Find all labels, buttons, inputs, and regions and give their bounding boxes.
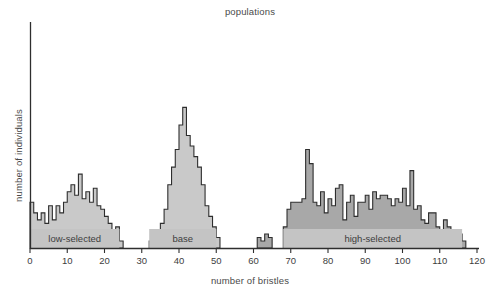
x-tick-label-60: 60 — [248, 255, 259, 266]
x-tick-label-0: 0 — [27, 255, 32, 266]
x-tick-label-70: 70 — [285, 255, 296, 266]
x-tick-label-110: 110 — [432, 255, 447, 266]
x-tick-label-80: 80 — [323, 255, 334, 266]
x-axis-ticks: 0102030405060708090100110120 — [27, 248, 485, 266]
histogram-bars — [30, 107, 466, 248]
x-tick-label-120: 120 — [469, 255, 485, 266]
x-tick-label-90: 90 — [360, 255, 371, 266]
x-tick-label-20: 20 — [99, 255, 110, 266]
chart-figure: populations number of individuals number… — [0, 0, 500, 299]
x-tick-label-10: 10 — [62, 255, 73, 266]
group-band-label-high-selected: high-selected — [344, 233, 401, 244]
group-band-label-base: base — [172, 233, 193, 244]
x-tick-label-50: 50 — [211, 255, 222, 266]
x-tick-label-30: 30 — [136, 255, 147, 266]
histogram-series-high-selected-outlier — [257, 234, 272, 248]
x-tick-label-40: 40 — [174, 255, 185, 266]
histogram-series-base — [149, 107, 220, 248]
plot-area: 0102030405060708090100110120 low-selecte… — [0, 0, 500, 299]
x-tick-label-100: 100 — [395, 255, 411, 266]
group-band-label-low-selected: low-selected — [48, 233, 101, 244]
